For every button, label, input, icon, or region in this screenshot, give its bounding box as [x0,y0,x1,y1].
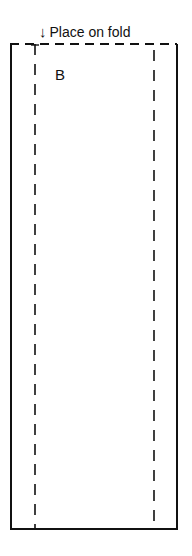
piece-letter: B [55,66,65,83]
down-arrow-icon: ↓ [39,23,47,40]
fold-label: ↓Place on fold [39,24,130,40]
fold-label-text: Place on fold [50,24,131,40]
pattern-piece-outline [0,0,192,556]
